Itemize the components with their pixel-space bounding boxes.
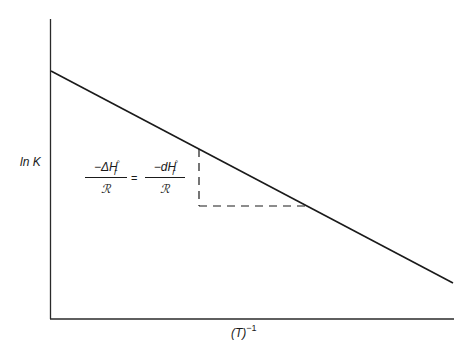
plot-area [0, 0, 475, 346]
equation-equals-sign: = [131, 172, 137, 184]
lhs-num-degree: ° [117, 159, 120, 168]
lhs-num-subscript: r [114, 167, 117, 177]
y-axis-label: ln K [20, 156, 41, 168]
equation-rhs-denominator: ℛ [160, 178, 170, 196]
x-axis-label-base: (T) [231, 326, 246, 340]
rhs-num-subscript: r [172, 167, 175, 177]
equation-rhs-fraction: −dH°r ℛ [145, 156, 185, 196]
equation-lhs-numerator: −ΔH°r [94, 156, 118, 177]
equation-rhs-numerator: −dH°r [154, 156, 177, 177]
equation-lhs-fraction: −ΔH°r ℛ [85, 156, 127, 196]
equation-lhs-denominator: ℛ [101, 178, 111, 196]
rhs-num-degree: ° [175, 159, 178, 168]
x-axis-label: (T)−1 [231, 325, 257, 339]
x-axis-label-exponent: −1 [246, 323, 256, 333]
